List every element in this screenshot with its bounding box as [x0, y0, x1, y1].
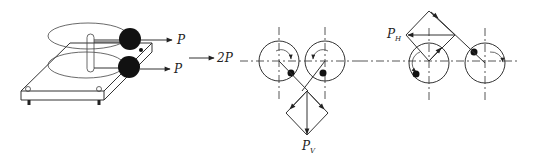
- panel-b-vertical: P V: [240, 27, 360, 155]
- shaft: [87, 34, 94, 72]
- upper-orbit: [48, 23, 128, 49]
- rotation-arrow-left: [412, 52, 420, 72]
- eccentric-mass-bottom: [118, 56, 140, 78]
- pv-subscript: V: [310, 147, 316, 155]
- vibrator-diagram: P P 2P P V: [0, 0, 533, 162]
- rotation-arrow-right: [490, 52, 503, 62]
- panel-c-horizontal: P H: [360, 11, 520, 100]
- panel-a-machine: P P 2P: [21, 23, 234, 105]
- pivot-dot: [139, 48, 143, 52]
- force-parallelogram-c: [406, 11, 455, 61]
- ph-subscript: H: [394, 35, 402, 43]
- force-label-bottom: P: [173, 62, 183, 76]
- rotation-arrow-cw: [276, 50, 291, 59]
- lower-orbit: [48, 52, 124, 78]
- resultant-label-2p: 2P: [216, 51, 234, 65]
- eccentric-mass-top: [119, 28, 141, 50]
- force-label-top: P: [176, 33, 186, 47]
- rotation-arrow-ccw: [313, 50, 328, 59]
